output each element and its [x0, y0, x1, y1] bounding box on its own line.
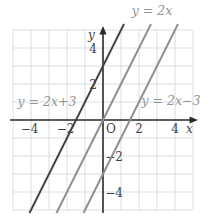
line-y-2x-minus-3-label: y = 2x−3	[141, 93, 201, 108]
x-tick-label: −4	[21, 122, 39, 136]
line-y-2x-label: y = 2x	[131, 3, 173, 18]
graph-figure: −4−22442−2−4Oxyy = 2x+3y = 2xy = 2x−3	[0, 0, 214, 224]
x-tick-label: 4	[171, 122, 179, 136]
y-axis-letter: y	[87, 28, 95, 42]
line-chart: −4−22442−2−4Oxyy = 2x+3y = 2xy = 2x−3	[0, 0, 214, 224]
y-tick-label: −4	[105, 186, 123, 200]
x-tick-label: 2	[135, 122, 143, 136]
origin-label: O	[106, 122, 116, 136]
x-axis-letter: x	[186, 122, 193, 136]
y-tick-label: 4	[89, 42, 97, 56]
line-y-2x-plus-3-label: y = 2x+3	[17, 94, 77, 109]
